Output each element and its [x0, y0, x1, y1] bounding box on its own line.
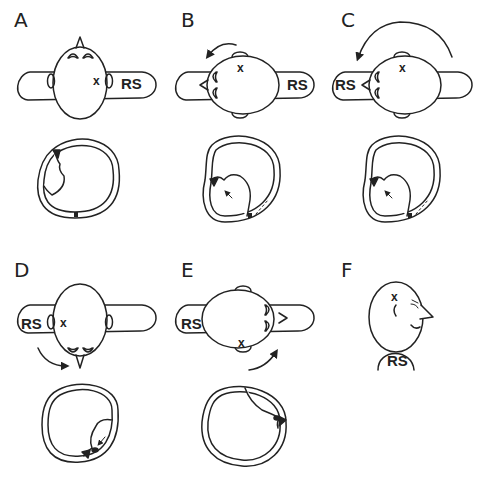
panel-f-figure: x RS — [369, 282, 433, 370]
panel-d-body: x RS — [18, 284, 156, 368]
otolith-arrow-icon — [99, 437, 105, 444]
rs-label: RS — [287, 76, 308, 93]
marker-x: x — [60, 316, 67, 330]
marker-x: x — [93, 74, 100, 88]
panel-e-body: x RS — [176, 286, 314, 370]
nose-icon — [76, 355, 84, 368]
marker-x: x — [391, 290, 398, 304]
panel-e-labyrinth — [202, 387, 286, 467]
panel-a-body: x RS — [18, 37, 156, 119]
marker-x: x — [399, 61, 406, 75]
panel-c-body: x RS — [333, 22, 472, 118]
rs-label: RS — [387, 352, 408, 369]
maneuver-diagram: x RS x RS x R — [0, 0, 482, 477]
marker-x: x — [238, 336, 245, 350]
panel-b-body: x RS — [176, 44, 314, 118]
rs-label: RS — [121, 75, 142, 92]
panel-d-labyrinth — [42, 384, 118, 462]
nose-icon — [420, 305, 433, 319]
panel-c-labyrinth — [363, 136, 440, 222]
panel-a-labyrinth — [38, 139, 120, 218]
marker-x: x — [237, 61, 244, 75]
rotation-arrow-icon — [208, 44, 236, 56]
rs-label: RS — [181, 315, 202, 332]
rotation-arrow-icon — [249, 352, 276, 370]
rotation-arrow-icon — [38, 348, 66, 366]
rs-label: RS — [21, 315, 42, 332]
panel-b-labyrinth — [203, 136, 280, 222]
rs-label: RS — [335, 76, 356, 93]
